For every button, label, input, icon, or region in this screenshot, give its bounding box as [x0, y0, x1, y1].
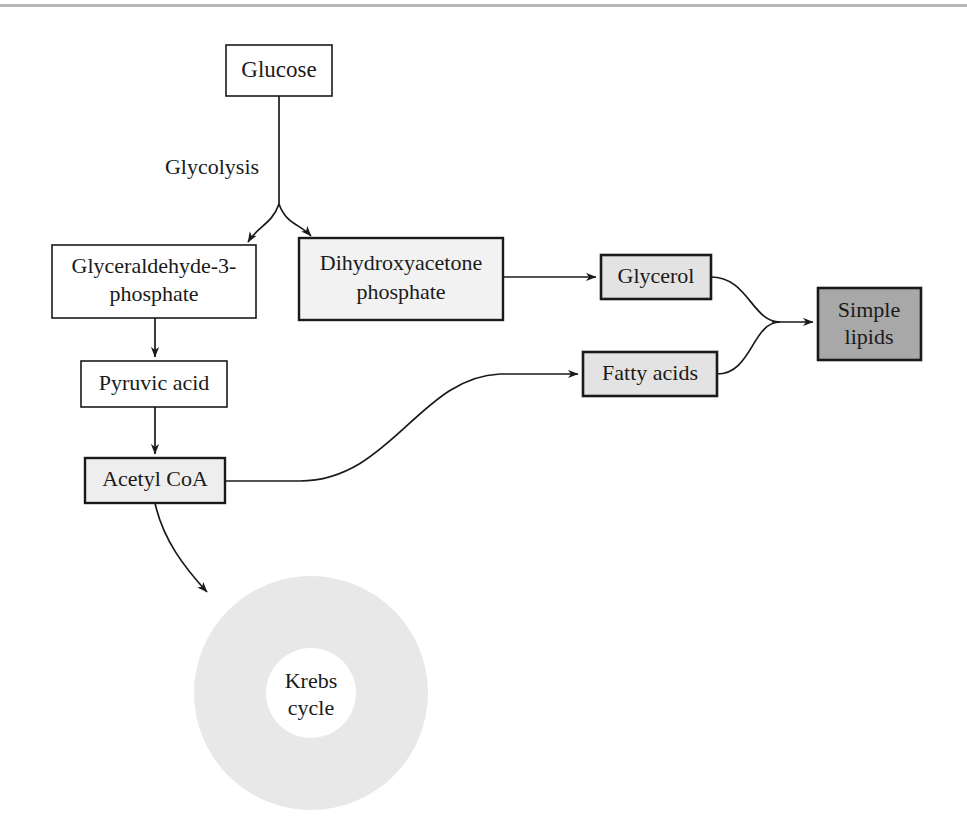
node-simple-lipids[interactable]: Simple lipids: [818, 288, 921, 360]
metabolic-pathway-diagram: Glycolysis Glucose Glyceraldehyde-3- pho…: [0, 0, 967, 831]
edge-glycerol-to-junction: [711, 277, 780, 322]
node-glyceraldehyde-3-phosphate[interactable]: Glyceraldehyde-3- phosphate: [52, 245, 256, 318]
node-glycerol-label: Glycerol: [618, 263, 695, 288]
edge-label-glycolysis: Glycolysis: [165, 154, 259, 179]
edge-fork-to-dihydroxyacetone: [279, 204, 311, 236]
edge-acetyl-to-krebs: [155, 503, 207, 592]
node-dihydroxyacetone-phosphate-label-line1: Dihydroxyacetone: [320, 250, 483, 275]
node-simple-lipids-label-line2: lipids: [845, 324, 894, 349]
node-dihydroxyacetone-phosphate-label-line2: phosphate: [356, 279, 445, 304]
edge-fatty-acids-to-junction: [717, 322, 780, 374]
edge-acetyl-to-fatty-acids: [225, 374, 578, 481]
node-dihydroxyacetone-phosphate[interactable]: Dihydroxyacetone phosphate: [299, 238, 503, 320]
node-pyruvic-acid[interactable]: Pyruvic acid: [81, 361, 227, 407]
node-glyceraldehyde-3-phosphate-label-line2: phosphate: [109, 281, 198, 306]
node-fatty-acids-label: Fatty acids: [602, 360, 698, 385]
node-glycerol[interactable]: Glycerol: [601, 255, 711, 299]
node-acetyl-coa-label: Acetyl CoA: [102, 466, 208, 491]
node-simple-lipids-label-line1: Simple: [838, 297, 900, 322]
node-krebs-cycle[interactable]: Krebs cycle: [194, 576, 428, 810]
node-pyruvic-acid-label: Pyruvic acid: [99, 370, 210, 395]
edge-fork-to-glyceraldehyde: [248, 204, 279, 242]
node-krebs-cycle-label-line2: cycle: [288, 695, 334, 720]
node-acetyl-coa[interactable]: Acetyl CoA: [85, 458, 225, 503]
node-krebs-cycle-label-line1: Krebs: [285, 668, 338, 693]
node-glyceraldehyde-3-phosphate-label-line1: Glyceraldehyde-3-: [72, 253, 237, 278]
node-glucose-label: Glucose: [241, 57, 316, 82]
node-glucose[interactable]: Glucose: [226, 45, 332, 96]
node-fatty-acids[interactable]: Fatty acids: [583, 352, 717, 396]
